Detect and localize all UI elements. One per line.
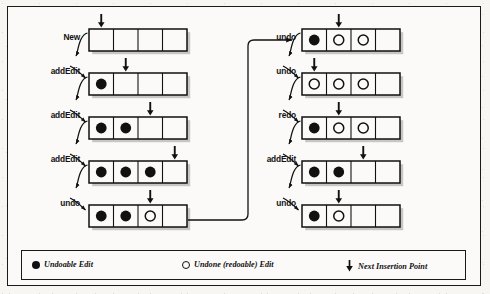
right_column-box-1-insertion-arrow-head [311,66,318,71]
down-arrow-icon [345,260,354,272]
right_column-transition-2-in [289,121,301,144]
right_column-box-2-cell-0-filled-circle-icon [309,123,320,134]
left_column-box-1-cell-0-filled-circle-icon [96,79,107,90]
legend-item-1: Undone (redoable) Edit [182,260,274,269]
right_column-box-3-cell-0-filled-circle-icon [309,167,320,178]
right_column-box-2-cell-2-open-circle-icon [358,123,368,133]
filled-circle-icon [32,261,40,269]
generated-geometry [70,14,403,230]
right_column-box-2-insertion-arrow-head [335,110,342,115]
left_column-box-4-insertion-arrow-head [147,198,154,203]
left_column-box-3-insertion-arrow-head [171,154,178,159]
open-circle-icon [182,261,190,269]
left-label-0: New [36,33,80,41]
left-label-3: addEdit [22,155,80,163]
left_column-box-2-cell-0-filled-circle-icon [96,123,107,134]
left-label-4: undo [22,199,80,207]
right_column-box-2-cell-1-open-circle-icon [334,123,344,133]
left_column-box-3-cell-0-filled-circle-icon [96,167,107,178]
right-label-0: undo [238,33,296,41]
left_column-box-4-cell-2-open-circle-icon [145,211,155,221]
right_column-box-4-cell-0-filled-circle-icon [309,211,320,222]
left_column-box-0-insertion-arrow-head [98,22,105,27]
right_column-transition-1-in [289,77,301,100]
legend-item-2-label: Next Insertion Point [358,262,427,271]
right_column-box-0-cell-0-filled-circle-icon [309,35,320,46]
right_column-box-1-cell-1-open-circle-icon [334,79,344,89]
right_column-box-0-insertion-arrow-head [335,22,342,27]
right_column-box-3-insertion-arrow-head [360,154,367,159]
right_column-box-4-insertion-arrow-head [335,198,342,203]
right_column-transition-3-in [289,165,301,188]
right_column-box-0-cell-1-open-circle-icon [334,35,344,45]
right_column-box-1-cell-0-open-circle-icon [309,79,319,89]
legend-item-0-label: Undoable Edit [44,260,93,269]
right_column-box-1-cell-2-open-circle-icon [358,79,368,89]
right_column-box-0-cell-2-open-circle-icon [358,35,368,45]
right-label-3: addEdit [238,155,296,163]
left_column-box-4-cell-0-filled-circle-icon [96,211,107,222]
left-label-1: addEdit [22,67,80,75]
left_column-box-3-cell-2-filled-circle-icon [145,167,156,178]
left_column-box-4-cell-1-filled-circle-icon [120,211,131,222]
left_column-transition-3-in [76,165,88,188]
left_column-box-3-cell-1-filled-circle-icon [120,167,131,178]
left_column-box-2-insertion-arrow-head [147,110,154,115]
right-label-4: undo [238,199,296,207]
legend-item-2: Next Insertion Point [345,260,427,272]
left-label-2: addEdit [22,111,80,119]
left_column-transition-2-in [76,121,88,144]
legend-item-0: Undoable Edit [32,260,93,269]
right-label-2: redo [238,111,296,119]
right_column-box-3-cell-1-filled-circle-icon [333,167,344,178]
left_column-box-2-cell-1-filled-circle-icon [120,123,131,134]
left_column-box-1-insertion-arrow-head [122,66,129,71]
right_column-box-4-cell-1-open-circle-icon [334,211,344,221]
left_column-transition-1-in [76,77,88,100]
legend-item-1-label: Undone (redoable) Edit [194,260,274,269]
right-label-1: undo [238,67,296,75]
